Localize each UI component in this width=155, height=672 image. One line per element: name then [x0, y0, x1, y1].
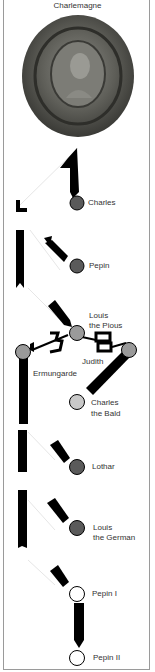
label-pepin: Pepin	[89, 261, 109, 271]
label-charles-the-bald-1: Charles	[91, 398, 119, 408]
label-louis-the-german-1: Louis	[93, 523, 112, 533]
label-pepin-i: Pepin I	[92, 589, 117, 599]
label-louis-the-pious-1: Louis	[89, 311, 108, 321]
charlemagne-seal-image	[22, 15, 134, 137]
node-pepin-ii	[70, 651, 85, 666]
label-louis-the-pious-2: the Pious	[89, 321, 122, 331]
node-lothar	[70, 460, 85, 475]
node-ermungarde	[16, 345, 31, 360]
node-pepin-i	[70, 587, 85, 602]
node-louis-the-german	[70, 521, 85, 536]
node-charles	[70, 196, 84, 210]
node-pepin	[70, 259, 84, 273]
label-charles: Charles	[88, 198, 116, 208]
node-louis-the-pious	[70, 326, 85, 341]
label-lothar: Lothar	[92, 462, 115, 472]
node-judith	[122, 343, 137, 358]
label-louis-the-german-2: the German	[93, 533, 135, 543]
node-charles-the-bald	[70, 395, 85, 410]
label-ermungarde: Ermungarde	[33, 369, 77, 379]
genealogy-lines	[0, 0, 155, 672]
label-pepin-ii: Pepin II	[93, 653, 120, 663]
label-charles-the-bald-2: the Bald	[91, 409, 120, 419]
label-judith: Judith	[82, 357, 103, 367]
